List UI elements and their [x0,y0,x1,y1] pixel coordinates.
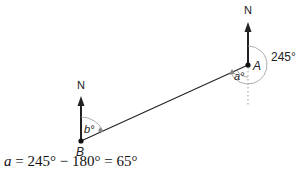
north-arrowhead-a [245,22,252,32]
equation-text: = 245° − 180° = 65° [12,153,138,169]
bearing-label-245: 245° [271,50,296,64]
point-b [78,138,83,143]
equation-var: a [4,153,12,169]
north-label-a: N [244,4,252,16]
point-a [245,62,250,67]
angle-label-a: a° [234,70,245,82]
angle-label-a-text: a° [234,70,245,82]
point-label-a: A [252,59,261,73]
bearing-diagram: N 245° a° A N b° B [0,0,304,177]
angle-label-b: b° [84,123,95,135]
north-label-b: N [77,79,85,91]
bearing-line-ab [81,65,248,141]
north-arrowhead-b [78,96,85,106]
equation: a = 245° − 180° = 65° [4,153,137,170]
